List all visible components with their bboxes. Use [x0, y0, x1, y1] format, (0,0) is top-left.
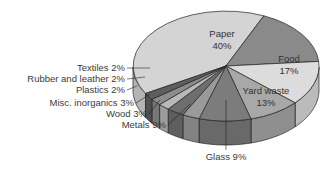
label-rubber-leather: Rubber and leather 2%: [27, 73, 125, 84]
label-food-pct: 17%: [279, 65, 299, 76]
label-misc-inorganics: Misc. inorganics 3%: [50, 97, 135, 108]
label-textiles: Textiles 2%: [77, 62, 126, 73]
label-paper-name: Paper: [209, 28, 234, 39]
slice-side-wood: [183, 115, 199, 143]
label-paper-pct: 40%: [212, 40, 232, 51]
slice-side-metals: [199, 119, 251, 145]
pie-chart: Paper 40% Food 17% Yard waste 13% Glass …: [0, 0, 336, 173]
label-yard-name: Yard waste: [243, 85, 290, 96]
label-metals: Metals 9%: [122, 119, 167, 130]
label-plastics: Plastics 2%: [76, 84, 126, 95]
label-wood: Wood 3%: [106, 108, 148, 119]
label-food-name: Food: [278, 53, 300, 64]
label-glass: Glass 9%: [206, 151, 247, 162]
label-yard-pct: 13%: [256, 97, 276, 108]
